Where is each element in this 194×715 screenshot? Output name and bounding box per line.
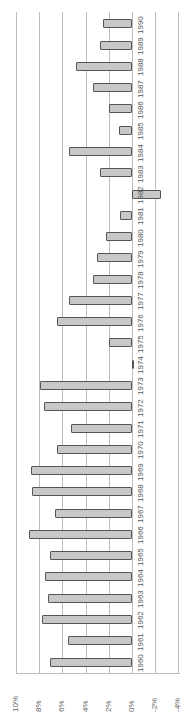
bar-1981 bbox=[120, 211, 132, 220]
category-label: 1960 bbox=[136, 654, 145, 672]
gridline bbox=[39, 12, 40, 673]
bar-1990 bbox=[103, 19, 132, 28]
category-label: 1984 bbox=[136, 144, 145, 162]
category-label: 1971 bbox=[136, 420, 145, 438]
category-label: 1970 bbox=[136, 442, 145, 460]
bar-1975 bbox=[109, 338, 132, 347]
gridline bbox=[16, 12, 17, 673]
bar-1983 bbox=[100, 168, 132, 177]
bar-1971 bbox=[71, 424, 132, 433]
bar-1985 bbox=[119, 126, 132, 135]
category-label: 1964 bbox=[136, 569, 145, 587]
value-tick-label: 2% bbox=[104, 682, 116, 712]
category-label: 1976 bbox=[136, 314, 145, 332]
bar-1969 bbox=[31, 466, 132, 475]
category-label: 1980 bbox=[136, 229, 145, 247]
value-tick-label: -4% bbox=[173, 682, 185, 712]
category-label: 1979 bbox=[136, 250, 145, 268]
category-label: 1988 bbox=[136, 59, 145, 77]
bar-1989 bbox=[100, 41, 132, 50]
category-label: 1989 bbox=[136, 37, 145, 55]
bar-1973 bbox=[40, 381, 132, 390]
gridline bbox=[155, 12, 156, 673]
bar-1976 bbox=[57, 317, 132, 326]
category-label: 1972 bbox=[136, 399, 145, 417]
category-label: 1963 bbox=[136, 590, 145, 608]
category-label: 1977 bbox=[136, 293, 145, 311]
value-tick-label: 0% bbox=[127, 682, 139, 712]
plot-frame bbox=[16, 673, 180, 674]
bar-1980 bbox=[106, 232, 132, 241]
category-label: 1987 bbox=[136, 80, 145, 98]
bar-1960 bbox=[50, 658, 132, 667]
category-label: 1962 bbox=[136, 612, 145, 630]
category-label: 1983 bbox=[136, 165, 145, 183]
value-tick-label: 6% bbox=[57, 682, 69, 712]
bar-1978 bbox=[93, 275, 132, 284]
bar-1972 bbox=[44, 402, 132, 411]
category-label: 1986 bbox=[136, 101, 145, 119]
bar-1977 bbox=[69, 296, 132, 305]
category-label: 1973 bbox=[136, 378, 145, 396]
category-label: 1974 bbox=[136, 356, 145, 374]
bar-1979 bbox=[97, 253, 132, 262]
bar-1962 bbox=[42, 615, 132, 624]
category-label: 1966 bbox=[136, 527, 145, 545]
category-label: 1982 bbox=[136, 186, 145, 204]
bar-1965 bbox=[50, 551, 132, 560]
category-label: 1969 bbox=[136, 463, 145, 481]
bar-1964 bbox=[45, 572, 132, 581]
value-tick-label: -2% bbox=[150, 682, 162, 712]
value-tick-label: 10% bbox=[11, 682, 23, 712]
bar-1967 bbox=[55, 509, 132, 518]
gridline bbox=[132, 12, 133, 673]
value-tick-label: 8% bbox=[34, 682, 46, 712]
bar-1988 bbox=[76, 62, 132, 71]
bar-1963 bbox=[48, 594, 132, 603]
bar-1987 bbox=[93, 83, 132, 92]
bar-1961 bbox=[68, 636, 132, 645]
bar-1968 bbox=[32, 487, 132, 496]
bar-1970 bbox=[57, 445, 132, 454]
bar-chart: 10%8%6%4%2%0%-2%-4%196019611962196319641… bbox=[0, 0, 194, 715]
value-tick-label: 4% bbox=[81, 682, 93, 712]
category-label: 1990 bbox=[136, 16, 145, 34]
category-label: 1985 bbox=[136, 122, 145, 140]
bar-1984 bbox=[69, 147, 132, 156]
bar-1974 bbox=[132, 360, 134, 369]
category-label: 1968 bbox=[136, 484, 145, 502]
category-label: 1978 bbox=[136, 271, 145, 289]
category-label: 1967 bbox=[136, 505, 145, 523]
gridline bbox=[178, 12, 179, 673]
bar-1966 bbox=[29, 530, 132, 539]
category-label: 1981 bbox=[136, 208, 145, 226]
category-label: 1961 bbox=[136, 633, 145, 651]
category-label: 1975 bbox=[136, 335, 145, 353]
category-label: 1965 bbox=[136, 548, 145, 566]
bar-1986 bbox=[109, 104, 132, 113]
